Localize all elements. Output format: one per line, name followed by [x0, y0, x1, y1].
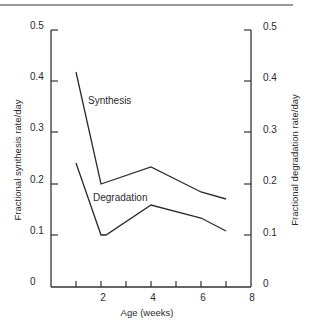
y-tick-label-right: 0.4: [263, 72, 277, 83]
y-tick-label: 0: [30, 276, 36, 287]
x-tick-label: 6: [200, 292, 206, 303]
x-axis: 2 4 6 8 Age (weeks): [51, 281, 255, 318]
y-tick-label: 0.3: [30, 122, 44, 133]
left-y-axis: 0.5 0.4 0.3 0.2 0.1 0 Fractional synthes…: [12, 20, 58, 287]
y-tick-label-right: 0.1: [263, 227, 277, 238]
x-tick-label: 8: [249, 292, 255, 303]
right-y-axis: 0.5 0.4 0.3 0.2 0.1 0 Fractional degrada…: [244, 21, 300, 289]
y-tick-label: 0.4: [30, 71, 44, 82]
y-tick-label: 0.1: [30, 225, 44, 236]
y-tick-label-right: 0.5: [263, 21, 277, 32]
degradation-label: Degradation: [93, 192, 147, 203]
y-tick-label-right: 0.3: [263, 124, 277, 135]
synthesis-line: [76, 72, 226, 199]
synthesis-label: Synthesis: [88, 95, 131, 106]
x-tick-label: 4: [150, 292, 156, 303]
y-tick-label-right: 0: [263, 278, 269, 289]
y-axis-title-left: Fractional synthesis rate/day: [12, 99, 23, 220]
y-axis-title-right: Fractional degradation rate/day: [289, 94, 300, 226]
x-axis-title: Age (weeks): [121, 307, 174, 318]
chart: 0.5 0.4 0.3 0.2 0.1 0 Fractional synthes…: [0, 0, 315, 330]
y-tick-label: 0.5: [30, 20, 44, 31]
y-tick-label-right: 0.2: [263, 175, 277, 186]
x-tick-label: 2: [100, 292, 106, 303]
y-tick-label: 0.2: [30, 174, 44, 185]
